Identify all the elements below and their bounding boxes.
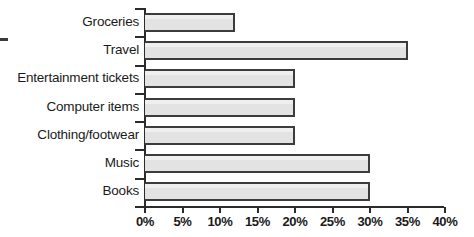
x-axis-tick [144,207,146,213]
y-axis-tick [135,65,144,67]
bar-travel [145,41,408,60]
x-axis-tick-label: 40% [423,214,467,230]
bar-music [145,154,370,173]
x-axis-tick [444,207,446,213]
y-axis-tick [135,121,144,123]
y-axis-tick [135,8,144,10]
x-axis-tick [369,207,371,213]
x-axis-tick [407,207,409,213]
x-axis-tick [257,207,259,213]
category-label-groceries: Groceries [82,14,139,30]
bar-groceries [145,13,235,32]
category-label-clothing-footwear: Clothing/footwear [37,127,139,143]
category-label-entertainment-tickets: Entertainment tickets [17,70,139,86]
x-axis-tick [332,207,334,213]
y-axis-tick [135,149,144,151]
x-axis-tick [182,207,184,213]
x-axis-tick [219,207,221,213]
y-axis-tick [135,178,144,180]
scan-artifact-dash [0,38,8,41]
bar-chart: 0%5%10%15%20%25%30%35%40% GroceriesTrave… [0,0,474,237]
category-label-travel: Travel [103,42,139,58]
category-label-books: Books [102,183,139,199]
bar-books [145,182,370,201]
category-label-computer-items: Computer items [47,99,139,115]
y-axis-tick [135,93,144,95]
y-axis-tick [135,36,144,38]
bar-clothing-footwear [145,126,295,145]
bar-entertainment-tickets [145,69,295,88]
y-axis-tick [135,206,144,208]
x-axis-tick [294,207,296,213]
category-label-music: Music [105,155,139,171]
bar-computer-items [145,98,295,117]
